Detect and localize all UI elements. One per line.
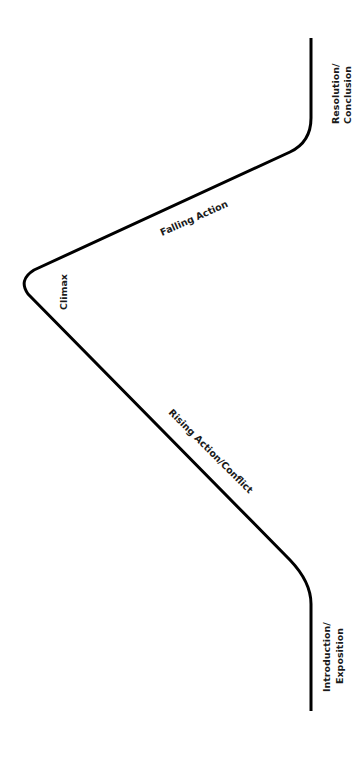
- label-falling-action: Falling Action: [158, 198, 229, 238]
- label-climax: Climax: [58, 274, 69, 310]
- story-arc-line: [24, 38, 311, 711]
- plot-diagram: Resolution/ Conclusion Falling Action Cl…: [0, 0, 364, 761]
- label-introduction-line1: Introduction/: [321, 622, 332, 692]
- label-introduction-line2: Exposition: [334, 628, 345, 684]
- label-resolution-line2: Conclusion: [342, 66, 353, 124]
- label-resolution-line1: Resolution/: [330, 63, 341, 124]
- label-rising-action: Rising Action/Conflict: [167, 407, 256, 496]
